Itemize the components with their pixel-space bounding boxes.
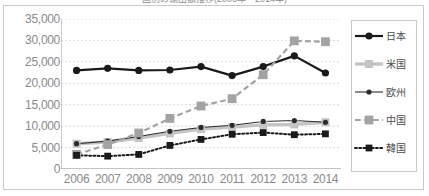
x-axis-tick-label: 2008	[122, 172, 156, 186]
data-point-marker	[230, 123, 235, 128]
data-point-marker	[322, 69, 329, 76]
data-point-marker	[73, 67, 80, 74]
data-point-marker	[292, 118, 297, 123]
data-point-marker	[73, 152, 80, 159]
x-axis-tick-label: 2007	[91, 172, 125, 186]
legend-label: 中国	[384, 115, 406, 126]
legend-label: 欧州	[384, 87, 406, 98]
legend-label: 韓国	[384, 143, 406, 154]
data-point-marker	[229, 72, 236, 79]
data-point-marker	[104, 153, 111, 160]
data-point-marker	[135, 67, 142, 74]
y-axis-tick-label: 0	[8, 163, 60, 175]
data-point-marker	[166, 66, 173, 73]
chart-legend: 日本米国欧州中国韓国	[351, 20, 417, 172]
y-axis-tick-label: 5,000	[8, 142, 60, 154]
data-point-marker	[104, 65, 111, 72]
x-axis-tick-label: 2011	[215, 172, 249, 186]
x-axis-tick-label: 2006	[60, 172, 94, 186]
legend-item-4[interactable]: 韓国	[354, 139, 416, 157]
legend-swatch-icon	[354, 85, 384, 99]
x-axis-tick-label: 2009	[153, 172, 187, 186]
data-point-marker	[260, 129, 267, 136]
x-axis-tick-label: 2012	[246, 172, 280, 186]
chart-frame: 05,00010,00015,00020,00025,00030,00035,0…	[3, 5, 424, 190]
data-point-marker	[197, 63, 204, 70]
data-point-marker	[103, 140, 112, 149]
data-point-marker	[166, 142, 173, 149]
y-axis-tick-label: 30,000	[8, 34, 60, 46]
legend-item-0[interactable]: 日本	[354, 27, 416, 45]
legend-item-3[interactable]: 中国	[354, 111, 416, 129]
data-point-marker	[261, 119, 266, 124]
data-point-marker	[74, 141, 79, 146]
x-axis-tick-label: 2010	[184, 172, 218, 186]
series-markers	[72, 36, 330, 159]
data-point-marker	[198, 136, 205, 143]
legend-swatch-icon	[354, 113, 384, 127]
data-point-marker	[322, 130, 329, 137]
data-point-marker	[291, 131, 298, 138]
data-point-marker	[165, 114, 174, 123]
x-axis: 200620072008200920102011201220132014	[55, 172, 350, 190]
legend-label: 米国	[384, 59, 406, 70]
y-axis-tick-label: 15,000	[8, 99, 60, 111]
y-axis-tick-label: 25,000	[8, 56, 60, 68]
data-point-marker	[260, 63, 267, 70]
data-point-marker	[135, 151, 142, 158]
x-axis-tick-label: 2013	[277, 172, 311, 186]
y-axis-tick-label: 20,000	[8, 77, 60, 89]
data-point-marker	[134, 129, 143, 138]
data-point-marker	[321, 37, 330, 46]
y-axis-tick-label: 35,000	[8, 13, 60, 25]
x-axis-tick-label: 2014	[308, 172, 342, 186]
data-point-marker	[197, 102, 206, 111]
data-point-marker	[290, 36, 299, 45]
legend-swatch-icon	[354, 57, 384, 71]
chart-title-clipped: 国別の輸出額推移(2006年〜2014年)	[0, 0, 429, 4]
y-axis-tick-label: 10,000	[8, 120, 60, 132]
data-point-marker	[228, 94, 237, 103]
data-point-marker	[323, 120, 328, 125]
data-point-marker	[229, 131, 236, 138]
plot-area	[61, 19, 341, 169]
data-point-marker	[198, 125, 203, 130]
legend-item-2[interactable]: 欧州	[354, 83, 416, 101]
legend-item-1[interactable]: 米国	[354, 55, 416, 73]
data-point-marker	[291, 52, 298, 59]
legend-swatch-icon	[354, 29, 384, 43]
y-axis: 05,00010,00015,00020,00025,00030,00035,0…	[4, 6, 60, 191]
data-point-marker	[259, 70, 268, 79]
legend-label: 日本	[384, 31, 406, 42]
data-point-marker	[167, 129, 172, 134]
line-chart-svg	[61, 19, 341, 169]
legend-swatch-icon	[354, 141, 384, 155]
chart-title-text: 国別の輸出額推移(2006年〜2014年)	[142, 0, 287, 4]
